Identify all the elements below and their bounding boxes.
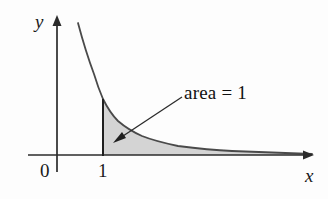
x-axis-arrowhead xyxy=(303,151,314,160)
shaded-area-region xyxy=(103,99,310,155)
x-axis-label: x xyxy=(305,166,313,185)
origin-tick-label: 0 xyxy=(40,161,50,180)
area-annotation-label: area = 1 xyxy=(184,83,247,102)
y-axis-arrowhead xyxy=(53,15,62,26)
y-axis-label: y xyxy=(35,12,43,31)
annotation-arrow-shaft xyxy=(120,97,182,138)
figure-canvas: y x 0 1 area = 1 xyxy=(0,0,328,199)
x-tick-label-1: 1 xyxy=(98,161,108,180)
